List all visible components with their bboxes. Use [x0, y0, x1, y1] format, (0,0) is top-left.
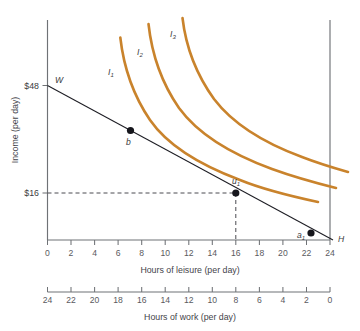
svg-text:12: 12	[184, 248, 194, 258]
y-axis-title: Income (per day)	[10, 97, 20, 164]
svg-text:4: 4	[281, 295, 286, 305]
svg-text:0: 0	[45, 248, 50, 258]
curve-label-I2: I2	[137, 47, 143, 58]
label-u1: u1	[232, 176, 240, 187]
svg-text:12: 12	[184, 295, 194, 305]
x-axis-ticks-work	[48, 287, 331, 292]
svg-text:6: 6	[116, 248, 121, 258]
curve-label-I1: I1	[108, 67, 114, 78]
indifference-curve-I2	[149, 24, 337, 188]
indifference-curve-I3	[183, 18, 349, 172]
svg-text:14: 14	[208, 248, 218, 258]
x-axis-ticklabels-leisure: 0 2 4 6 8 10 12 14 16 18 20 22 24	[45, 248, 335, 258]
svg-text:2: 2	[69, 248, 74, 258]
point-u1	[232, 189, 239, 196]
labor-leisure-indifference-chart: 0 2 4 6 8 10 12 14 16 18 20 22 24 Hours …	[0, 0, 360, 331]
svg-text:6: 6	[257, 295, 262, 305]
svg-text:2: 2	[304, 295, 309, 305]
svg-text:14: 14	[160, 295, 170, 305]
x-axis-ticks-leisure	[48, 240, 331, 245]
label-H: H	[338, 234, 345, 244]
label-a1: a1	[297, 230, 305, 241]
svg-text:8: 8	[233, 295, 238, 305]
svg-text:22: 22	[66, 295, 76, 305]
svg-text:10: 10	[208, 295, 218, 305]
budget-line	[48, 86, 334, 241]
svg-text:4: 4	[92, 248, 97, 258]
indifference-curve-I1	[120, 38, 318, 203]
svg-text:16: 16	[137, 295, 147, 305]
svg-text:18: 18	[255, 248, 265, 258]
y-ticklabel-16: $16	[24, 188, 39, 198]
svg-text:16: 16	[231, 248, 241, 258]
svg-text:20: 20	[278, 248, 288, 258]
curve-label-I3: I3	[170, 29, 176, 40]
svg-text:18: 18	[113, 295, 123, 305]
point-a1	[307, 229, 314, 236]
x-axis-title-leisure: Hours of leisure (per day)	[140, 265, 239, 275]
y-ticklabel-48: $48	[24, 81, 39, 91]
svg-text:20: 20	[90, 295, 100, 305]
chart-canvas: 0 2 4 6 8 10 12 14 16 18 20 22 24 Hours …	[0, 0, 360, 331]
svg-text:10: 10	[160, 248, 170, 258]
label-W: W	[55, 75, 64, 85]
point-b	[127, 127, 134, 134]
svg-text:8: 8	[139, 248, 144, 258]
x-axis-title-work: Hours of work (per day)	[144, 312, 236, 322]
label-b: b	[126, 137, 131, 147]
svg-text:0: 0	[328, 295, 333, 305]
svg-text:22: 22	[302, 248, 312, 258]
x-axis-ticklabels-work: 24 22 20 18 16 14 12 10 8 6 4 2 0	[43, 295, 333, 305]
svg-text:24: 24	[43, 295, 53, 305]
svg-text:24: 24	[325, 248, 335, 258]
